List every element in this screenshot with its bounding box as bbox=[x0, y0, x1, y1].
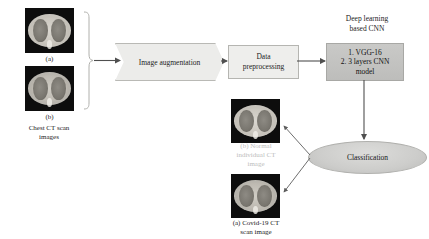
data-preprocessing-box[interactable]: Data preprocessing bbox=[228, 45, 299, 79]
ct-spine bbox=[47, 40, 52, 48]
input-brace-icon bbox=[84, 12, 93, 109]
cnn-models-box[interactable]: 1. VGG-16 2. 3 layers CNN model bbox=[326, 43, 404, 81]
deep-learning-cnn-heading: Deep learning based CNN bbox=[318, 14, 416, 33]
ct-spine bbox=[47, 98, 52, 106]
diagram-canvas: (a) (b) Chest CT scan images Image augme… bbox=[0, 0, 429, 239]
ct-image-output-covid bbox=[231, 174, 280, 218]
classification-ellipse[interactable]: Classification bbox=[308, 141, 427, 174]
ct-image-output-normal bbox=[231, 99, 280, 143]
normal-ct-caption: (b) Normal individual CT image bbox=[222, 142, 290, 169]
ct-spine bbox=[253, 131, 258, 139]
ct-lung-left bbox=[239, 110, 254, 133]
chest-ct-caption: Chest CT scan images bbox=[8, 124, 90, 142]
ct-input-a-label: (a) bbox=[25, 55, 74, 64]
ct-image-input-a bbox=[25, 8, 74, 53]
ct-spine bbox=[253, 206, 258, 214]
ct-lung-left bbox=[239, 185, 254, 208]
ct-image-input-b bbox=[25, 66, 74, 111]
image-augmentation-shape[interactable]: Image augmentation bbox=[115, 43, 224, 81]
ct-lung-left bbox=[33, 19, 48, 42]
covid-ct-caption: (a) Covid-19 CT scan image bbox=[218, 219, 294, 237]
ct-input-b-label: (b) bbox=[25, 113, 74, 122]
ct-lung-left bbox=[33, 77, 48, 100]
